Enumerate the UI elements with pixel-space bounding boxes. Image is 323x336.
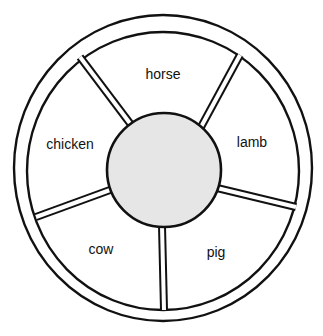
- wheel-diagram: horse lamb pig cow chicken: [0, 0, 323, 336]
- segment-label-pig: pig: [207, 244, 226, 260]
- spoke-horse-lamb: [201, 55, 240, 127]
- center-hub: [107, 113, 221, 227]
- spoke-cow-chicken: [36, 190, 110, 217]
- segment-label-chicken: chicken: [46, 136, 93, 152]
- segment-label-lamb: lamb: [237, 134, 268, 150]
- segment-label-horse: horse: [145, 66, 180, 82]
- spoke-horse-chicken: [80, 57, 132, 126]
- spoke-lamb-pig: [217, 188, 296, 207]
- segment-label-cow: cow: [89, 241, 115, 257]
- spoke-pig-cow: [162, 226, 164, 310]
